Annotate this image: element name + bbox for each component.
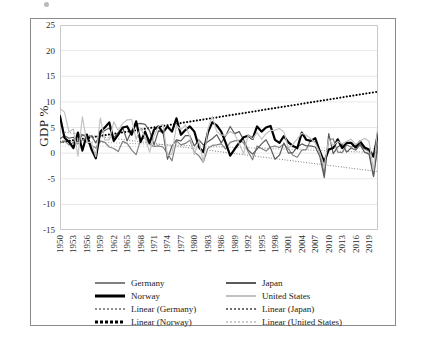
x-tick-label: 1989 [230, 235, 239, 253]
y-tick-label: -5 [48, 174, 56, 183]
legend-item[interactable]: Linear (United States) [226, 317, 347, 327]
y-tick-label: 20 [46, 46, 55, 55]
legend-label: Japan [262, 278, 283, 288]
chart-figure: GDP % 2520151050-5-10-151950195319561959… [0, 0, 427, 340]
legend-item[interactable]: Japan [226, 278, 347, 288]
y-tick-label: 10 [46, 97, 55, 106]
legend-swatch [95, 292, 125, 301]
x-tick-label: 2007 [311, 235, 320, 253]
chart-canvas [60, 25, 378, 230]
x-tick-label: 1974 [163, 235, 172, 253]
x-tick-label: 1965 [123, 235, 132, 253]
x-tick-label: 1998 [270, 235, 279, 253]
x-tick-label: 2016 [351, 235, 360, 253]
legend-item[interactable]: United States [226, 291, 347, 301]
legend-label: Linear (Japan) [262, 304, 314, 314]
x-tick-label: 1962 [109, 235, 118, 253]
x-tick-label: 1983 [203, 235, 212, 253]
x-tick-label: 1980 [190, 235, 199, 253]
legend-label: United States [262, 291, 310, 301]
legend-swatch [95, 279, 125, 288]
x-tick-label: 1968 [136, 235, 145, 253]
page-artifact-dot [44, 2, 49, 7]
series-germany [60, 138, 378, 176]
x-tick-label: 2019 [365, 235, 374, 253]
legend-label: Linear (United States) [262, 317, 342, 327]
x-tick-label: 1950 [56, 235, 65, 253]
legend-item[interactable]: Linear (Norway) [95, 317, 216, 327]
x-tick-label: 2004 [297, 235, 306, 253]
x-tick-label: 1992 [244, 235, 253, 253]
x-tick-label: 2013 [338, 235, 347, 253]
y-tick-label: 15 [46, 72, 55, 81]
y-tick-label: 5 [51, 123, 56, 132]
legend-item[interactable]: Linear (Japan) [226, 304, 347, 314]
x-tick-label: 1977 [176, 235, 185, 253]
legend-swatch [226, 292, 256, 301]
legend-item[interactable]: Linear (Germany) [95, 304, 216, 314]
chart-legend: GermanyJapanNorwayUnited StatesLinear (G… [95, 278, 347, 327]
y-tick-label: -10 [43, 200, 55, 209]
y-tick-label: 25 [46, 21, 55, 30]
x-tick-label: 2010 [324, 235, 333, 253]
x-tick-label: 1995 [257, 235, 266, 253]
legend-label: Linear (Germany) [131, 304, 196, 314]
y-tick-label: 0 [51, 149, 56, 158]
legend-label: Germany [131, 278, 165, 288]
y-tick-label: -15 [43, 226, 55, 235]
x-tick-label: 1986 [217, 235, 226, 253]
legend-item[interactable]: Germany [95, 278, 216, 288]
legend-swatch [226, 318, 256, 327]
x-tick-label: 1971 [150, 235, 159, 253]
x-tick-label: 1956 [82, 235, 91, 253]
legend-label: Linear (Norway) [131, 317, 192, 327]
x-tick-label: 2001 [284, 235, 293, 253]
legend-swatch [226, 279, 256, 288]
x-tick-label: 1953 [69, 235, 78, 253]
legend-label: Norway [131, 291, 160, 301]
trendline-linear-norway [60, 92, 378, 143]
x-tick-label: 1959 [96, 235, 105, 253]
plot-area: 2520151050-5-10-151950195319561959196219… [60, 25, 378, 230]
legend-swatch [95, 318, 125, 327]
legend-swatch [226, 305, 256, 314]
legend-item[interactable]: Norway [95, 291, 216, 301]
legend-swatch [95, 305, 125, 314]
